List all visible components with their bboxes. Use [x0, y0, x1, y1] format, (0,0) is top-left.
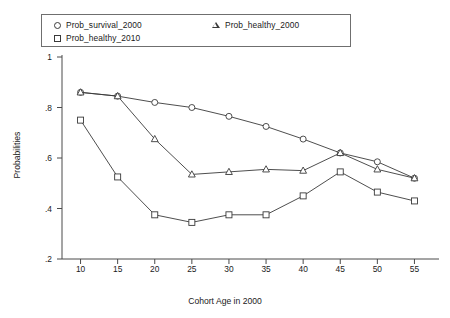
x-tick-label: 45 [336, 264, 345, 274]
chart-page: Prob_survival_2000 Prob_healthy_2010 Pro… [0, 0, 450, 318]
x-tick-label: 30 [224, 264, 233, 274]
x-tick-label: 40 [298, 264, 307, 274]
y-tick-label: .8 [26, 103, 52, 113]
square-marker-icon [78, 117, 84, 123]
circle-marker-icon [152, 99, 158, 105]
series-line-prob-survival-2000 [81, 92, 415, 178]
circle-marker-icon [263, 123, 269, 129]
triangle-marker-icon [263, 166, 270, 172]
y-tick-label: .4 [26, 204, 52, 214]
square-marker-icon [300, 193, 306, 199]
y-tick-label: .6 [26, 153, 52, 163]
square-marker-icon [337, 169, 343, 175]
circle-marker-icon [226, 113, 232, 119]
circle-marker-icon [374, 159, 380, 165]
x-axis-title: Cohort Age in 2000 [0, 296, 450, 306]
x-tick-label: 35 [261, 264, 270, 274]
square-marker-icon [152, 212, 158, 218]
y-tick-label: 1 [26, 52, 52, 62]
y-axis-title: Probabilities [12, 110, 22, 200]
square-marker-icon [226, 212, 232, 218]
square-marker-icon [115, 174, 121, 180]
x-tick-label: 20 [150, 264, 159, 274]
circle-marker-icon [300, 136, 306, 142]
series-line-prob-healthy-2010 [81, 120, 415, 222]
x-tick-label: 55 [410, 264, 419, 274]
x-tick-label: 25 [187, 264, 196, 274]
series-line-prob-healthy-2000 [81, 92, 415, 178]
square-marker-icon [189, 219, 195, 225]
circle-marker-icon [189, 105, 195, 111]
x-tick-label: 15 [113, 264, 122, 274]
triangle-marker-icon [374, 166, 381, 172]
square-marker-icon [374, 189, 380, 195]
square-marker-icon [263, 212, 269, 218]
y-tick-label: .2 [26, 254, 52, 264]
square-marker-icon [411, 198, 417, 204]
x-tick-label: 50 [373, 264, 382, 274]
x-tick-label: 10 [76, 264, 85, 274]
